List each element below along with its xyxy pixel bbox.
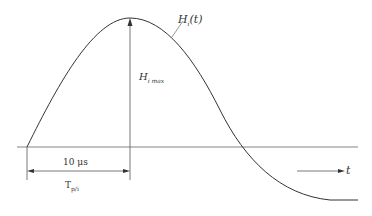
time-label: Tp/i xyxy=(65,180,79,192)
arrow-left-icon xyxy=(27,169,34,173)
duration-label: 10 μs xyxy=(63,157,88,167)
time-arrowhead-icon xyxy=(338,169,345,173)
waveform-curve xyxy=(27,18,358,200)
waveform-diagram xyxy=(0,0,372,216)
peak-label: Hi max xyxy=(139,71,164,84)
peak-arrowhead-icon xyxy=(128,18,133,26)
axis-label-t: t xyxy=(346,164,350,177)
arrow-right-icon xyxy=(123,169,130,173)
curve-label: Hi(t) xyxy=(178,13,203,27)
